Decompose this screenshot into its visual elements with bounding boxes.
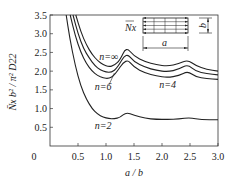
y-tick-label: 1.5: [35, 84, 48, 95]
y-tick-label: 2.0: [35, 66, 48, 77]
y-tick-label: 0.5: [35, 122, 48, 133]
series-n=4: [70, 15, 218, 79]
y-tick-label: 2.5: [35, 47, 48, 58]
dim-arrow-left-icon: [143, 47, 147, 49]
dim-arrow-up-icon: [207, 18, 209, 22]
buckling-chart: 0.51.01.52.02.53.00.51.01.52.02.53.03.5 …: [0, 0, 233, 185]
n6-leader-line: [109, 73, 115, 85]
series-curves: [66, 15, 218, 120]
y-axis-label: N̄x b² / π² D22: [7, 53, 18, 111]
load-label: Nx: [124, 22, 137, 33]
x-tick-label: 1.0: [100, 151, 113, 162]
annotation-n=∞: n=∞: [99, 51, 118, 62]
dim-arrow-down-icon: [207, 29, 209, 33]
y-tick-label: 3.0: [35, 28, 48, 39]
x-tick-label: 3.0: [212, 151, 225, 162]
x-tick-label: 2.5: [184, 151, 197, 162]
dim-arrow-right-icon: [184, 47, 188, 49]
annotation-n=6: n=6: [95, 81, 112, 92]
x-tick-label: 1.5: [128, 151, 141, 162]
origin-label: 0: [32, 151, 37, 162]
y-tick-label: 1.0: [35, 103, 48, 114]
plate-grid-lines: [143, 18, 188, 33]
length-label: a: [162, 37, 167, 48]
plate-inset-diagram: Nx a b: [124, 17, 212, 51]
x-tick-label: 0.5: [72, 151, 85, 162]
annotation-n=4: n=4: [159, 79, 176, 90]
y-tick-label: 3.5: [35, 10, 48, 21]
x-tick-label: 2.0: [156, 151, 169, 162]
x-axis-label: a / b: [125, 167, 143, 178]
annotation-n=2: n=2: [95, 120, 112, 131]
width-label: b: [197, 23, 208, 28]
